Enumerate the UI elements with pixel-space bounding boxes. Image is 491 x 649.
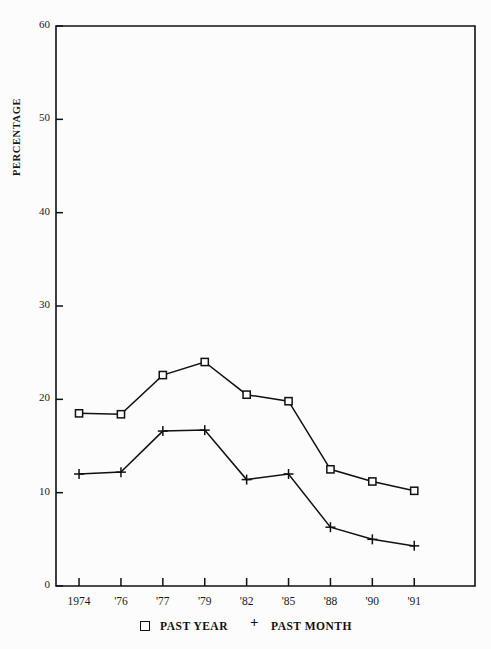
- plus-marker-icon: [250, 620, 262, 632]
- x-tick-label: '82: [224, 595, 270, 607]
- x-tick-label: '77: [140, 595, 186, 607]
- y-tick-label: 60: [24, 18, 50, 30]
- x-tick-label: '76: [98, 595, 144, 607]
- y-tick-label: 10: [24, 485, 50, 497]
- legend-item-past-year: PAST YEAR: [139, 620, 228, 632]
- x-tick-label: '88: [307, 595, 353, 607]
- chart-figure: PERCENTAGE 0102030405060 1974'76'77'79'8…: [0, 0, 491, 649]
- y-tick-label: 20: [24, 391, 50, 403]
- plot-area: [0, 0, 491, 649]
- square-marker-icon: [139, 620, 151, 632]
- legend-label-past-year: PAST YEAR: [160, 620, 228, 632]
- legend-item-past-month: PAST MONTH: [250, 620, 352, 632]
- y-tick-label: 40: [24, 205, 50, 217]
- chart-legend: PAST YEAR PAST MONTH: [0, 620, 491, 632]
- x-tick-label: '91: [391, 595, 437, 607]
- x-tick-label: '79: [182, 595, 228, 607]
- x-tick-label: '85: [266, 595, 312, 607]
- legend-label-past-month: PAST MONTH: [271, 620, 352, 632]
- y-tick-label: 50: [24, 111, 50, 123]
- x-tick-label: 1974: [56, 595, 102, 607]
- y-tick-label: 30: [24, 298, 50, 310]
- x-tick-label: '90: [349, 595, 395, 607]
- y-tick-label: 0: [24, 578, 50, 590]
